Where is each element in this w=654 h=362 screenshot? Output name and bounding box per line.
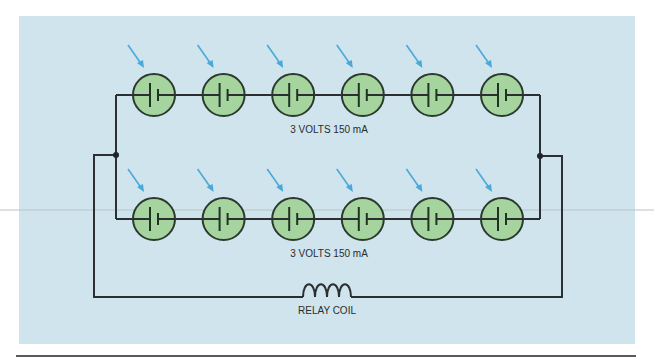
top-row-label: 3 VOLTS 150 mA [290, 124, 368, 135]
left-junction-dot [113, 152, 119, 158]
relay-coil-label: RELAY COIL [298, 305, 356, 316]
bottom-row-label: 3 VOLTS 150 mA [290, 248, 368, 259]
circuit-diagram: 3 VOLTS 150 mA 3 VOLTS 150 mA RELAY COIL [0, 0, 654, 362]
right-junction-dot [537, 153, 543, 159]
